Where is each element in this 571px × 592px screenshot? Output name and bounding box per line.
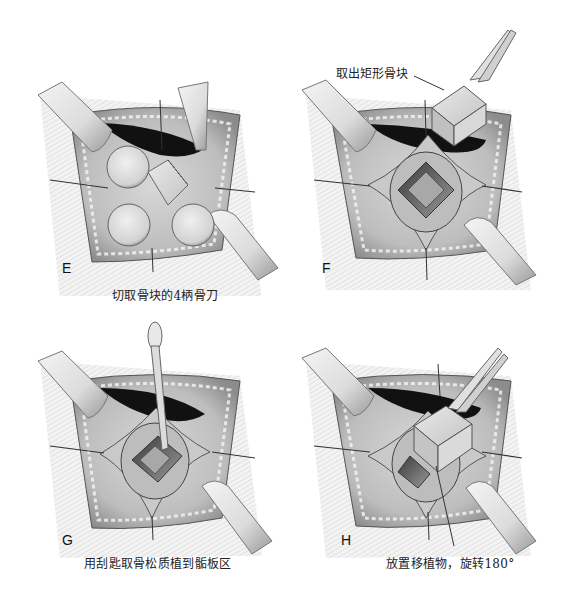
panel-h: H 放置移植物，旋转180° xyxy=(286,296,571,592)
panel-letter-h: H xyxy=(341,532,351,548)
panel-letter-e: E xyxy=(62,260,71,276)
panel-caption-h: 放置移植物，旋转180° xyxy=(386,554,515,571)
panel-e: E 切取骨块的4柄骨刀 xyxy=(0,0,285,296)
callout-remove-block: 取出矩形骨块 xyxy=(336,64,408,81)
surgical-illustration-e xyxy=(0,0,285,296)
panel-letter-f: F xyxy=(322,260,331,276)
surgical-illustration-f xyxy=(286,0,571,296)
surgical-illustration-g xyxy=(0,296,285,592)
panel-letter-g: G xyxy=(62,532,73,548)
panel-f: 取出矩形骨块 F xyxy=(286,0,571,296)
surgical-illustration-h xyxy=(286,296,571,592)
panel-g: G 用刮匙取骨松质植到骺板区 xyxy=(0,296,285,592)
panel-caption-g: 用刮匙取骨松质植到骺板区 xyxy=(84,554,232,571)
